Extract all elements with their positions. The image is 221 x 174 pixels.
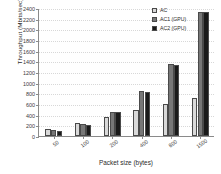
x-tick-mark xyxy=(83,136,84,139)
bar xyxy=(174,65,179,136)
bar xyxy=(57,131,62,136)
legend-item: AC1 (GPU) xyxy=(152,17,186,22)
bar xyxy=(86,125,91,136)
y-tick-label: 1600 xyxy=(23,49,35,55)
x-tick-label: 100 xyxy=(79,138,90,148)
bar xyxy=(133,110,138,136)
y-axis-title: Throughput (Mbits/sec) xyxy=(16,0,23,87)
bar xyxy=(145,92,150,136)
y-tick-label: 200 xyxy=(26,123,35,129)
y-tick-label: 2400 xyxy=(23,6,35,12)
bar xyxy=(192,98,197,136)
y-tick-label: 2200 xyxy=(23,17,35,23)
legend-item: AC2 (GPU) xyxy=(152,26,186,31)
bar xyxy=(139,91,144,136)
legend-label: AC2 (GPU) xyxy=(160,26,186,31)
x-tick-mark xyxy=(171,136,172,139)
bar xyxy=(198,12,203,136)
plot-area: 0200400600800100012001400160018002000220… xyxy=(38,9,214,137)
legend-swatch xyxy=(152,8,157,13)
y-tick-mark xyxy=(36,137,39,138)
bar-group xyxy=(133,9,149,136)
y-tick-label: 2000 xyxy=(23,27,35,33)
bar xyxy=(163,104,168,136)
bar-group xyxy=(192,9,208,136)
x-tick-label: 400 xyxy=(138,138,149,148)
legend-label: AC1 (GPU) xyxy=(160,17,186,22)
bar xyxy=(168,64,173,136)
x-tick-mark xyxy=(54,136,55,139)
y-tick-label: 1800 xyxy=(23,38,35,44)
y-tick-label: 0 xyxy=(32,134,35,140)
bar xyxy=(110,112,115,136)
bar xyxy=(104,117,109,136)
bar xyxy=(115,112,120,136)
bar xyxy=(75,123,80,136)
x-tick-label: 50 xyxy=(51,139,59,147)
x-tick-label: 800 xyxy=(167,138,178,148)
legend-swatch xyxy=(152,26,157,31)
bar-group xyxy=(104,9,120,136)
legend-swatch xyxy=(152,17,157,22)
bar-chart: Throughput (Mbits/sec) 02004006008001000… xyxy=(0,0,221,174)
bar-group xyxy=(75,9,91,136)
bar xyxy=(45,129,50,136)
y-tick-label: 1200 xyxy=(23,70,35,76)
legend-label: AC xyxy=(160,8,167,13)
legend-item: AC xyxy=(152,8,186,13)
bar-group xyxy=(45,9,61,136)
bar xyxy=(203,12,208,136)
x-axis-title: Packet size (bytes) xyxy=(38,159,214,166)
y-tick-label: 800 xyxy=(26,91,35,97)
x-tick-mark xyxy=(142,136,143,139)
legend: ACAC1 (GPU)AC2 (GPU) xyxy=(152,8,186,31)
x-tick-label: 200 xyxy=(109,138,120,148)
y-tick-label: 1400 xyxy=(23,59,35,65)
bar-series-container xyxy=(39,9,214,136)
y-tick-label: 600 xyxy=(26,102,35,108)
x-tick-label: 1500 xyxy=(195,138,208,150)
y-tick-label: 400 xyxy=(26,113,35,119)
bar xyxy=(80,124,85,136)
y-tick-label: 1000 xyxy=(23,81,35,87)
